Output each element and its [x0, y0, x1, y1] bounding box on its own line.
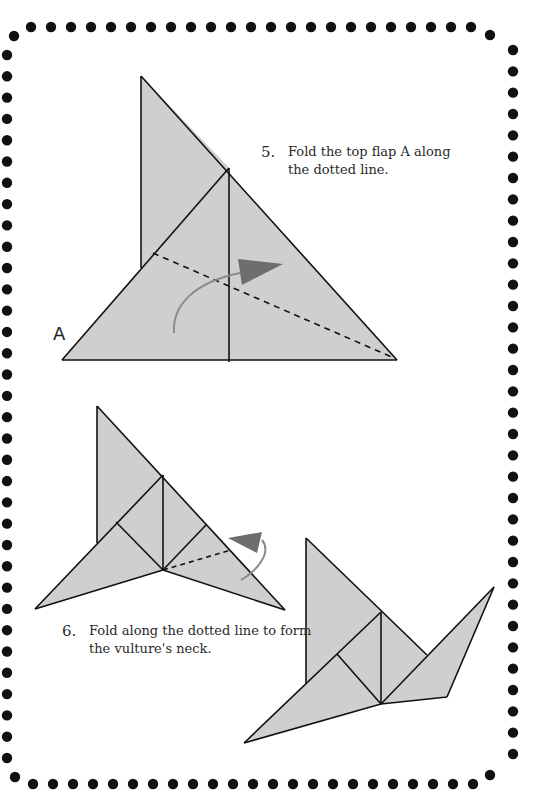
- step-6-diagram: [35, 406, 285, 610]
- flap-label-a: A: [53, 323, 65, 344]
- arrowhead-icon: [228, 532, 262, 553]
- step-text-line-1: Fold along the dotted line to form: [89, 622, 311, 640]
- step-text-line-2: the dotted line.: [288, 161, 451, 179]
- diagrams-layer: [0, 0, 538, 802]
- step-text-line-2: the vulture's neck.: [89, 640, 311, 658]
- step-text-line-1: Fold the top flap A along: [288, 143, 451, 161]
- step-text: Fold along the dotted line to form the v…: [89, 622, 311, 658]
- step-text: Fold the top flap A along the dotted lin…: [288, 143, 451, 179]
- step-number: 6.: [62, 622, 76, 640]
- step-5-diagram: [62, 76, 397, 362]
- step-number: 5.: [261, 143, 275, 161]
- page: 5. Fold the top flap A along the dotted …: [0, 0, 538, 802]
